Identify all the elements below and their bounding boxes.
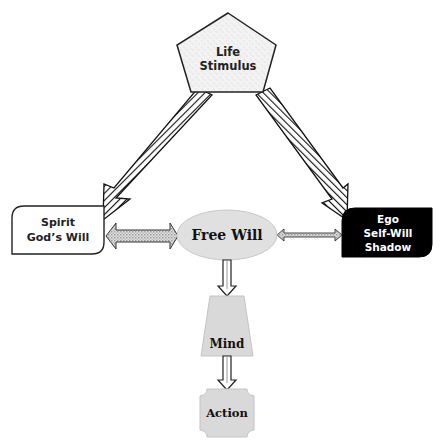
free-will-diagram: Life Stimulus Spirit God’s Will Ego Self…	[0, 0, 444, 448]
ego-line2: Self-Will	[364, 227, 413, 239]
free-will-label: Free Will	[191, 227, 262, 243]
arrow-life-to-ego	[256, 88, 348, 220]
spirit-line2: God’s Will	[27, 231, 89, 244]
spirit-line1: Spirit	[41, 216, 75, 229]
ego-line3: Shadow	[365, 241, 412, 253]
node-mind: Mind	[201, 296, 253, 356]
ego-line1: Ego	[377, 213, 399, 225]
arrow-free-will-ego	[277, 229, 342, 241]
arrow-spirit-free-will	[106, 223, 178, 249]
arrow-life-to-spirit	[103, 88, 212, 220]
node-life-stimulus: Life Stimulus	[177, 13, 276, 92]
node-ego: Ego Self-Will Shadow	[342, 208, 432, 257]
arrow-free-will-mind	[218, 260, 236, 296]
node-free-will: Free Will	[177, 210, 277, 260]
life-stimulus-line1: Life	[216, 45, 240, 59]
node-spirit: Spirit God’s Will	[12, 206, 104, 254]
node-action: Action	[200, 389, 254, 437]
action-label: Action	[205, 406, 248, 420]
arrow-mind-action	[218, 356, 236, 390]
life-stimulus-line2: Stimulus	[200, 59, 257, 73]
mind-label: Mind	[210, 337, 246, 351]
